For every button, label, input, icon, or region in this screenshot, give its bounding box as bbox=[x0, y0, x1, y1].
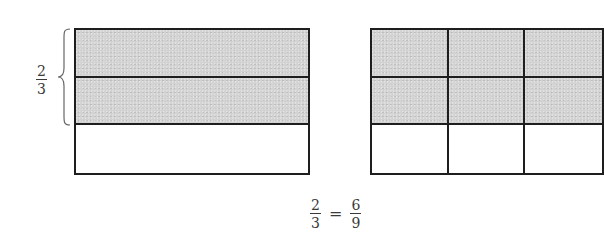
right-model-cell-r3-c2 bbox=[449, 125, 526, 173]
right-model-cell-r3-c1 bbox=[372, 125, 449, 173]
fraction-bar bbox=[310, 213, 321, 214]
equals-sign: = bbox=[329, 206, 342, 222]
equation-left-numerator: 2 bbox=[311, 198, 320, 212]
left-model-row-3-empty bbox=[76, 125, 308, 173]
right-model-cell-r1-c3 bbox=[525, 30, 602, 78]
equation-right-numerator: 6 bbox=[351, 198, 360, 212]
fraction-bar bbox=[350, 213, 361, 214]
right-model-cell-r2-c3 bbox=[525, 78, 602, 126]
curly-brace-icon bbox=[56, 28, 72, 126]
right-model-cell-r2-c1 bbox=[372, 78, 449, 126]
fraction-bar bbox=[36, 79, 47, 80]
left-model-row-2-shaded bbox=[76, 78, 308, 126]
right-model-cell-r1-c1 bbox=[372, 30, 449, 78]
right-area-model-ninths bbox=[370, 28, 604, 175]
brace-fraction-label: 2 3 bbox=[36, 64, 47, 96]
brace-fraction-denominator: 3 bbox=[37, 82, 46, 96]
equation-left-fraction: 2 3 bbox=[310, 198, 321, 230]
right-model-cell-r3-c3 bbox=[525, 125, 602, 173]
equation-left-denominator: 3 bbox=[311, 216, 320, 230]
left-area-model-thirds bbox=[74, 28, 310, 175]
equivalence-equation: 2 3 = 6 9 bbox=[310, 197, 361, 231]
right-model-cell-r2-c2 bbox=[449, 78, 526, 126]
equation-right-fraction: 6 9 bbox=[350, 198, 361, 230]
left-model-row-1-shaded bbox=[76, 30, 308, 78]
brace-fraction-numerator: 2 bbox=[37, 64, 46, 78]
right-model-cell-r1-c2 bbox=[449, 30, 526, 78]
equation-right-denominator: 9 bbox=[351, 216, 360, 230]
